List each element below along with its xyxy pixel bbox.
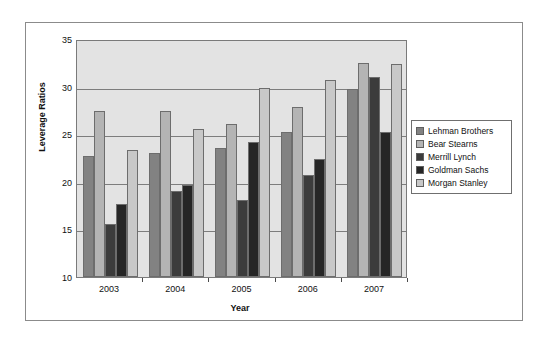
legend-label: Goldman Sachs [428,165,488,175]
legend-swatch-icon [416,140,424,148]
bar-bear-stearns-2006 [292,107,303,277]
bar-merrill-lynch-2004 [171,191,182,277]
bar-morgan-stanley-2007 [391,64,402,277]
bar-group-2003 [83,41,138,277]
legend-item-bear-stearns: Bear Stearns [416,138,507,150]
bar-goldman-sachs-2006 [314,159,325,277]
legend-swatch-icon [416,127,424,135]
y-tick-label-35: 35 [46,35,72,45]
y-tick-label-25: 25 [46,130,72,140]
bar-bear-stearns-2003 [94,111,105,277]
bar-lehman-brothers-2003 [83,156,94,277]
legend-label: Lehman Brothers [428,126,493,136]
legend-item-lehman-brothers: Lehman Brothers [416,125,507,137]
y-tick-label-30: 30 [46,83,72,93]
chart-legend: Lehman BrothersBear StearnsMerrill Lynch… [411,120,512,194]
bar-merrill-lynch-2007 [369,77,380,277]
y-tick-label-15: 15 [46,225,72,235]
y-tick-label-20: 20 [46,178,72,188]
bar-goldman-sachs-2004 [182,185,193,277]
legend-item-morgan-stanley: Morgan Stanley [416,177,507,189]
legend-label: Merrill Lynch [428,152,476,162]
legend-label: Bear Stearns [428,139,478,149]
bar-morgan-stanley-2003 [127,150,138,277]
x-tick-mark [407,278,408,282]
bar-group-2006 [281,41,336,277]
bar-lehman-brothers-2004 [149,153,160,277]
x-tick-label-2007: 2007 [354,284,394,294]
bar-lehman-brothers-2007 [347,89,358,277]
bar-morgan-stanley-2005 [259,88,270,277]
x-tick-label-2003: 2003 [89,284,129,294]
legend-swatch-icon [416,153,424,161]
bar-group-2004 [149,41,204,277]
bar-group-2007 [347,41,402,277]
bar-goldman-sachs-2005 [248,142,259,277]
bar-goldman-sachs-2003 [116,204,127,277]
bar-bear-stearns-2005 [226,124,237,277]
bar-morgan-stanley-2006 [325,80,336,277]
x-tick-mark [341,278,342,282]
bar-group-2005 [215,41,270,277]
x-tick-mark [142,278,143,282]
legend-label: Morgan Stanley [428,178,488,188]
x-axis-title: Year [75,303,405,313]
bar-lehman-brothers-2006 [281,132,292,277]
bars-layer [77,41,406,277]
x-axis-ticks: 20032004200520062007 [76,278,407,300]
y-axis-tick-labels: 101520253035 [44,40,72,278]
bar-bear-stearns-2007 [358,63,369,277]
x-tick-label-2006: 2006 [288,284,328,294]
bar-morgan-stanley-2004 [193,129,204,277]
bar-lehman-brothers-2005 [215,148,226,277]
legend-swatch-icon [416,179,424,187]
legend-item-merrill-lynch: Merrill Lynch [416,151,507,163]
bar-merrill-lynch-2003 [105,224,116,277]
plot-area [76,40,407,278]
legend-item-goldman-sachs: Goldman Sachs [416,164,507,176]
bar-merrill-lynch-2005 [237,200,248,277]
y-tick-label-10: 10 [46,273,72,283]
legend-swatch-icon [416,166,424,174]
bar-goldman-sachs-2007 [380,132,391,277]
chart-figure: Leverage Ratios 101520253035 20032004200… [0,0,547,342]
x-tick-mark [208,278,209,282]
x-tick-label-2005: 2005 [222,284,262,294]
x-tick-label-2004: 2004 [155,284,195,294]
x-tick-mark [275,278,276,282]
bar-bear-stearns-2004 [160,111,171,277]
bar-merrill-lynch-2006 [303,175,314,277]
